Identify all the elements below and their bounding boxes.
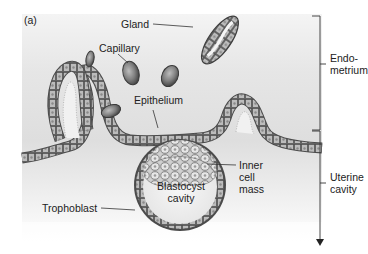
label-gland: Gland [121, 18, 149, 30]
label-inner-line-2: cell [239, 171, 264, 183]
label-uterine-line-1: Uterine [330, 171, 364, 183]
label-inner-cell-mass: Inner cell mass [239, 159, 264, 195]
label-uterine-line-2: cavity [330, 183, 364, 195]
label-blastocyst-cavity: Blastocyst cavity [150, 180, 212, 204]
label-inner-line-3: mass [239, 183, 264, 195]
panel-label: (a) [24, 14, 37, 26]
label-trophoblast: Trophoblast [42, 202, 97, 214]
label-epithelium: Epithelium [134, 94, 183, 106]
label-endometrium-line-2: metrium [330, 64, 368, 76]
label-capillary: Capillary [99, 42, 140, 54]
label-endometrium: Endo- metrium [330, 52, 368, 76]
label-inner-line-1: Inner [239, 159, 264, 171]
label-cavity-line-1: Blastocyst [150, 180, 212, 192]
label-cavity-line-2: cavity [150, 192, 212, 204]
label-endometrium-line-1: Endo- [330, 52, 368, 64]
label-uterine-cavity: Uterine cavity [330, 171, 364, 195]
